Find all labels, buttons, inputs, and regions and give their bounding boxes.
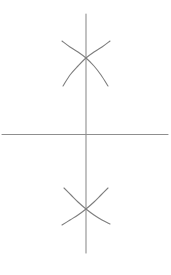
figure-container [0, 0, 171, 275]
math-figure-svg [0, 0, 171, 275]
